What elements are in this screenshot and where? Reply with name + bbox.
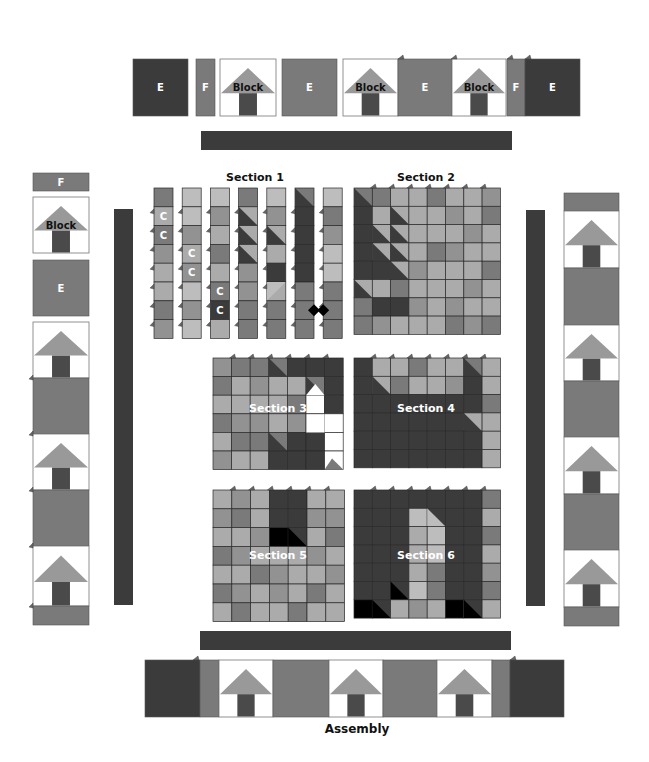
cell-fill [250,377,269,396]
grid-cell [427,413,445,431]
cell-fill [232,490,251,509]
cell-fill [372,563,390,581]
grid-cell [323,188,342,207]
block-label: Block [233,82,264,93]
grid-cell [427,316,445,334]
cell-fill [372,298,390,316]
seam-notch [389,354,395,358]
cell-fill [427,206,445,224]
cell-fill [427,563,445,581]
cell-fill [354,450,372,468]
grid-cell [446,261,464,279]
c-mark: C [160,230,167,241]
grid-cell [326,603,345,622]
seam-notch [206,209,210,214]
grid-cell [464,582,482,600]
cell-fill [326,490,345,509]
grid-cell [372,431,390,449]
right-sashing [526,210,545,606]
grid-cell [213,509,232,528]
grid-cell [213,565,232,584]
grid-cell [464,376,482,394]
cell-fill [391,188,409,206]
patch-label: E [422,82,429,93]
patch-label: E [549,82,556,93]
cell-fill [295,226,314,245]
grid-cell [267,301,286,320]
grid-cell [323,320,342,339]
grid-cell [446,188,464,206]
cell-fill [427,376,445,394]
patch-label: F [513,82,520,93]
cell-fill [232,509,251,528]
cell-fill [295,263,314,282]
grid-cell [464,527,482,545]
grid-cell [154,282,173,301]
cell-fill [464,545,482,563]
seam-notch [291,265,295,270]
section-6-title: Section 6 [397,549,455,562]
cell-fill [210,226,229,245]
grid-cell [409,188,427,206]
grid-cell [354,527,372,545]
seam-notch [462,184,468,188]
cell-fill [213,546,232,565]
cell-fill [154,188,173,207]
grid-cell [269,377,288,396]
cell-fill [354,298,372,316]
cell-fill [409,527,427,545]
grid-cell [464,508,482,526]
cell-fill [251,565,270,584]
seam-notch [235,322,239,327]
patch-label: E [306,82,313,93]
seam-notch [319,284,323,289]
grid-cell [446,508,464,526]
grid-cell [154,263,173,282]
cell-fill [464,188,482,206]
cell-fill [446,450,464,468]
cell-fill [269,451,288,470]
grid-cell [464,395,482,413]
seam-notch [444,184,450,188]
cell-fill [269,528,288,547]
cell-fill [464,206,482,224]
section-5-title: Section 5 [249,549,307,562]
cell-fill [482,413,500,431]
grid-cell [354,358,372,376]
grid-cell [372,582,390,600]
seam-notch [510,656,516,660]
seam-notch [178,246,182,251]
grid-cell [482,545,500,563]
cell-fill [354,225,372,243]
grid-cell [213,451,232,470]
cell-fill [391,508,409,526]
cell-fill [287,432,306,451]
seam-notch [206,246,210,251]
cell-fill [323,226,342,245]
seam-notch [291,322,295,327]
grid-cell [427,450,445,468]
bottom-border-row [145,656,564,717]
grid-cell [213,546,232,565]
cell-fill [391,600,409,618]
grid-cell [307,528,326,547]
grid-cell [446,298,464,316]
grid-cell [267,244,286,263]
cell-fill [409,188,427,206]
grid-cell [251,509,270,528]
seam-notch [263,322,267,327]
cell-fill [391,280,409,298]
grid-cell [427,527,445,545]
grid-cell [391,280,409,298]
cell-fill [427,358,445,376]
cell-fill [232,432,251,451]
seam-notch [263,246,267,251]
grid-cell [464,413,482,431]
seam-notch [389,184,395,188]
cell-fill [354,206,372,224]
cell-fill [446,206,464,224]
block-label: Block [355,82,386,93]
grid-cell [427,206,445,224]
grid-cell [307,509,326,528]
cell-fill [354,431,372,449]
